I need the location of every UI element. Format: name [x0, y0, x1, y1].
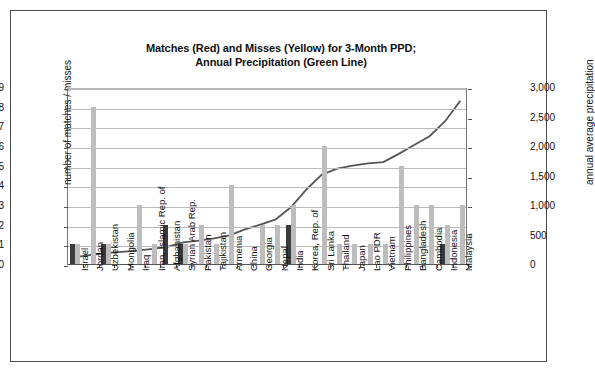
- gridline: [68, 168, 466, 169]
- x-axis-category-label: Jordan: [94, 242, 105, 271]
- y-axis-tick-mark-left: [64, 246, 68, 247]
- x-axis-category-label: Vietnam: [386, 236, 397, 271]
- x-axis-category-label: Georgia: [263, 237, 274, 271]
- gridline: [68, 89, 466, 90]
- chart-title-line-2: Annual Precipitation (Green Line): [71, 55, 491, 69]
- y-axis-tick-label-right: 2,000: [530, 141, 576, 152]
- y-axis-tick-mark-left: [64, 89, 68, 90]
- y-axis-tick-mark-right: [468, 119, 472, 120]
- x-axis-category-label: Tajikistan: [217, 232, 228, 271]
- y-axis-tick-mark-left: [64, 227, 68, 228]
- x-axis-category-label: Syrian Arab Rep.: [186, 199, 197, 271]
- x-axis-category-label: Nepal: [279, 246, 290, 271]
- y-axis-tick-mark-left: [64, 109, 68, 110]
- gridline: [68, 148, 466, 149]
- x-axis-category-label: Iran, Islamic Rep. of: [156, 187, 167, 271]
- gridline: [68, 128, 466, 129]
- y-axis-tick-label-left: 0: [0, 259, 4, 270]
- y-axis-tick-mark-left: [64, 148, 68, 149]
- x-axis-category-label: Israel: [79, 248, 90, 271]
- y-axis-tick-label-right: 1,000: [530, 200, 576, 211]
- x-axis-category-label: China: [248, 246, 259, 271]
- y-axis-title-left: number of matches / misses: [62, 60, 73, 185]
- x-axis-category-label: Bangladesh: [417, 221, 428, 271]
- y-axis-tick-mark-right: [468, 207, 472, 208]
- y-axis-tick-mark-right: [468, 148, 472, 149]
- y-axis-tick-label-left: 5: [0, 161, 4, 172]
- y-axis-tick-label-right: 500: [530, 230, 576, 241]
- y-axis-tick-mark-left: [64, 207, 68, 208]
- y-axis-tick-mark-right: [468, 89, 472, 90]
- y-axis-tick-label-left: 4: [0, 180, 4, 191]
- x-axis-category-label: Thailand: [340, 235, 351, 271]
- y-axis-tick-mark-left: [64, 128, 68, 129]
- y-axis-tick-label-left: 6: [0, 141, 4, 152]
- x-axis-category-label: Armenia: [233, 236, 244, 271]
- chart-frame: Matches (Red) and Misses (Yellow) for 3-…: [10, 10, 547, 362]
- x-axis-category-label: Sri Lanka: [325, 231, 336, 271]
- y-axis-tick-label-left: 2: [0, 220, 4, 231]
- chart-title-line-1: Matches (Red) and Misses (Yellow) for 3-…: [71, 41, 491, 55]
- x-axis-category-label: Mongolia: [125, 232, 136, 271]
- x-axis-category-label: Philippines: [402, 225, 413, 271]
- gridline: [68, 207, 466, 208]
- bar-miss: [91, 107, 96, 264]
- x-axis-category-label: Iraq: [140, 255, 151, 271]
- chart-title: Matches (Red) and Misses (Yellow) for 3-…: [71, 41, 491, 69]
- y-axis-tick-label-left: 1: [0, 239, 4, 250]
- y-axis-tick-label-right: 3,000: [530, 82, 576, 93]
- gridline: [68, 109, 466, 110]
- x-axis-category-label: Pakistan: [202, 235, 213, 271]
- y-axis-tick-label-right: 1,500: [530, 171, 576, 182]
- gridline: [68, 187, 466, 188]
- x-axis-category-label: India: [294, 250, 305, 271]
- x-axis-category-label: Japan: [356, 245, 367, 271]
- y-axis-tick-mark-right: [468, 178, 472, 179]
- y-axis-title-right: annual average precipitation: [584, 59, 595, 185]
- y-axis-tick-label-right: 2,500: [530, 112, 576, 123]
- y-axis-tick-label-right: 0: [530, 259, 576, 270]
- y-axis-tick-mark-left: [64, 266, 68, 267]
- y-axis-tick-label-left: 8: [0, 102, 4, 113]
- x-axis-category-label: Lao PDR: [371, 232, 382, 271]
- x-axis-category-label: Indonesia: [448, 230, 459, 271]
- y-axis-tick-label-left: 9: [0, 82, 4, 93]
- x-axis-category-label: Uzbekistan: [109, 224, 120, 271]
- y-axis-tick-label-left: 3: [0, 200, 4, 211]
- y-axis-tick-mark-left: [64, 187, 68, 188]
- x-axis-category-label: Malaysia: [463, 234, 474, 272]
- x-axis-category-label: Korea, Rep. of: [309, 210, 320, 271]
- y-axis-tick-label-left: 7: [0, 121, 4, 132]
- y-axis-tick-mark-left: [64, 168, 68, 169]
- x-axis-category-label: Afghanistan: [171, 221, 182, 271]
- x-axis-category-label: Cambodia: [433, 228, 444, 271]
